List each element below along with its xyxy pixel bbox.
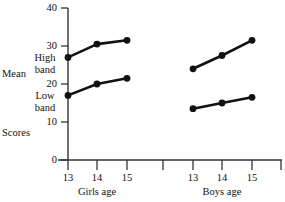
x-tick-label-boys-14: 14 <box>211 173 233 184</box>
point-girls-high-14 <box>94 41 101 48</box>
point-boys-low-15 <box>249 94 256 101</box>
high-band-label-line1: High <box>35 52 56 63</box>
point-boys-high-13 <box>190 65 197 72</box>
low-band-label-line1: Low <box>35 90 54 101</box>
y-axis-title-line2: Scores <box>2 128 46 139</box>
point-boys-high-15 <box>249 37 256 44</box>
x-tick-label-girls-15: 15 <box>116 173 138 184</box>
point-boys-high-14 <box>219 52 226 59</box>
y-tick-label-20: 20 <box>35 79 57 90</box>
line-chart: 40 30 20 10 0 High band Low band Mean Sc… <box>0 0 285 202</box>
y-tick-label-40: 40 <box>35 3 57 14</box>
boys-age-caption: Boys age <box>182 187 262 198</box>
y-axis-title-line1: Mean <box>2 69 46 80</box>
point-boys-low-13 <box>190 105 197 112</box>
low-band-label-line2: band <box>35 102 55 113</box>
x-tick-label-girls-14: 14 <box>86 173 108 184</box>
point-girls-low-14 <box>94 81 101 88</box>
girls-age-caption: Girls age <box>57 187 137 198</box>
point-girls-high-13 <box>65 54 72 61</box>
x-tick-label-boys-13: 13 <box>182 173 204 184</box>
point-boys-low-14 <box>219 100 226 107</box>
y-tick-label-30: 30 <box>35 41 57 52</box>
x-tick-label-girls-13: 13 <box>57 173 79 184</box>
y-tick-label-0: 0 <box>35 155 57 166</box>
point-girls-low-15 <box>124 75 131 82</box>
x-tick-label-boys-15: 15 <box>241 173 263 184</box>
point-girls-high-15 <box>124 37 131 44</box>
y-tick-label-10: 10 <box>35 117 57 128</box>
low-band-label: Low band <box>28 90 62 114</box>
point-girls-low-13 <box>65 92 72 99</box>
